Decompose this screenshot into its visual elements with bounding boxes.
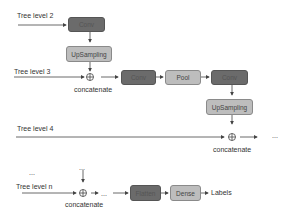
dense-box: Dense: [170, 185, 201, 201]
ellipsis-above-concat: ...: [79, 164, 85, 172]
tree-level-3-label: Tree level 3: [14, 68, 50, 76]
conv-box-3: Conv: [211, 70, 248, 85]
ellipsis-after-concat: ...: [101, 190, 107, 198]
concatenate-label-1: concatenate: [74, 86, 112, 94]
upsampling-box-1: UpSampling: [66, 46, 112, 62]
flatten-box: Flatten: [130, 185, 161, 201]
concatenate-label-2: concatenate: [213, 146, 251, 154]
conv-box-2: Conv: [121, 70, 156, 85]
labels-output: Labels: [211, 189, 232, 197]
ellipsis-left: ...: [29, 169, 35, 177]
ellipsis-level-4: ...: [272, 132, 278, 140]
tree-level-4-label: Tree level 4: [17, 125, 53, 133]
tree-level-n-label: Tree level n: [16, 183, 52, 191]
pool-box: Pool: [165, 70, 201, 85]
upsampling-box-2: UpSampling: [206, 99, 253, 115]
tree-level-2-label: Tree level 2: [17, 12, 53, 20]
conv-box-1: Conv: [68, 17, 105, 32]
concatenate-label-3: concatenate: [65, 201, 103, 209]
